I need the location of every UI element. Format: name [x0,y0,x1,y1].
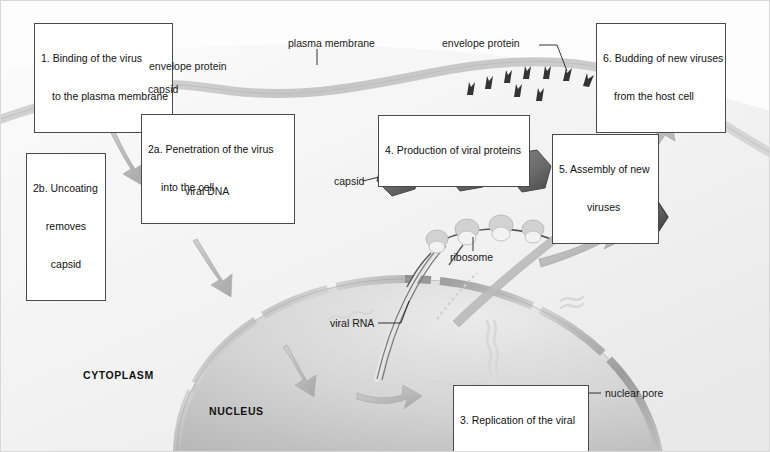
label-envelope-protein-right: envelope protein [442,37,520,49]
label-capsid-virus: capsid [148,83,178,95]
label-nuclear-pore: nuclear pore [605,387,663,399]
step-2b-line-1: 2b. Uncoating [33,182,99,195]
step-1-line-1: 1. Binding of the virus [41,52,166,65]
callout-step-3[interactable]: 3. Replication of the viral genetic mate… [453,385,589,452]
step-5-line-2: viruses [559,201,652,214]
step-4-line-1: 4. Production of viral proteins [385,144,523,157]
callout-step-2b[interactable]: 2b. Uncoating removes capsid [26,153,106,301]
step-5-line-1: 5. Assembly of new [559,163,652,176]
callout-step-2a[interactable]: 2a. Penetration of the virus into the ce… [141,114,295,224]
label-nucleus: NUCLEUS [209,405,264,417]
callout-step-5[interactable]: 5. Assembly of new viruses [552,134,659,244]
step-2a-line-1: 2a. Penetration of the virus [148,143,288,156]
label-cytoplasm: CYTOPLASM [83,369,154,381]
callout-step-4[interactable]: 4. Production of viral proteins [378,115,530,187]
step-2b-line-3: capsid [33,258,99,271]
label-capsid-free: capsid [334,175,364,187]
label-viral-rna: viral RNA [330,317,374,329]
viral-replication-diagram: 1. Binding of the virus to the plasma me… [0,0,770,452]
step-6-line-2: from the host cell [603,90,719,103]
label-viral-dna: viral DNA [185,185,229,197]
label-plasma-membrane: plasma membrane [288,37,375,49]
step-6-line-1: 6. Budding of new viruses [603,52,719,65]
label-ribosome: ribosome [450,251,493,263]
step-3-line-1: 3. Replication of the viral [460,414,582,427]
step-2b-line-2: removes [33,220,99,233]
callout-step-6[interactable]: 6. Budding of new viruses from the host … [596,23,726,133]
label-envelope-protein-left: envelope protein [149,60,227,72]
